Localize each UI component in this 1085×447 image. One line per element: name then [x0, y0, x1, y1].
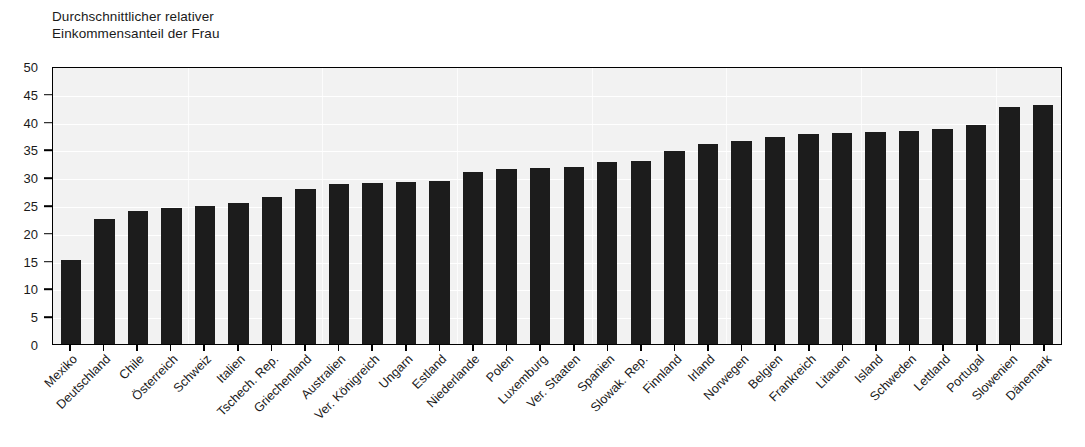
x-tick-mark: [1010, 345, 1012, 351]
x-tick-slot: [389, 345, 423, 352]
bar: [832, 133, 852, 344]
x-tick-mark: [439, 345, 441, 351]
x-label-slot: Österreich: [154, 352, 188, 447]
bar-slot: [959, 68, 993, 344]
bar: [463, 172, 483, 344]
bar: [228, 203, 248, 344]
x-tick-mark: [640, 345, 642, 351]
bar: [966, 125, 986, 344]
x-tick-mark: [506, 345, 508, 351]
x-label-slot: Ver. Königreich: [355, 352, 389, 447]
chart-title-line-2: Einkommensanteil der Frau: [52, 25, 220, 42]
x-label-slot: Lettland: [926, 352, 960, 447]
x-tick-mark: [304, 345, 306, 351]
y-tick-label: 15: [24, 254, 38, 269]
x-tick-slot: [322, 345, 356, 352]
bar-slot: [456, 68, 490, 344]
bar-slot: [389, 68, 423, 344]
bar: [932, 129, 952, 344]
y-tick-label: 50: [24, 60, 38, 75]
x-tick-mark: [405, 345, 407, 351]
x-tick-mark: [271, 345, 273, 351]
x-tick-mark: [909, 345, 911, 351]
x-tick-mark: [69, 345, 71, 351]
bar: [597, 162, 617, 344]
bar: [765, 137, 785, 344]
chart-title: Durchschnittlicher relativer Einkommensa…: [52, 8, 220, 42]
x-label-slot: Finnland: [658, 352, 692, 447]
bar-slot: [1026, 68, 1060, 344]
x-tick-mark: [539, 345, 541, 351]
x-tick-mark: [103, 345, 105, 351]
x-label-slot: Schweiz: [187, 352, 221, 447]
bar-slot: [222, 68, 256, 344]
x-tick-mark: [976, 345, 978, 351]
bar: [195, 206, 215, 344]
x-tick-slot: [691, 345, 725, 352]
y-tick-label: 0: [31, 338, 38, 353]
y-tick-label: 10: [24, 282, 38, 297]
y-tick-mark: [44, 316, 52, 318]
bar: [530, 168, 550, 344]
x-tick-mark: [808, 345, 810, 351]
bar-slot: [423, 68, 457, 344]
y-tick-label: 35: [24, 143, 38, 158]
x-tick-mark: [607, 345, 609, 351]
x-tick-mark: [842, 345, 844, 351]
x-tick-slot: [490, 345, 524, 352]
bar: [128, 211, 148, 344]
bar: [631, 161, 651, 344]
y-tick-label: 5: [31, 310, 38, 325]
x-label-slot: Norwegen: [725, 352, 759, 447]
bar: [1033, 105, 1053, 344]
bar: [698, 144, 718, 344]
y-tick-mark: [44, 205, 52, 207]
bar-slot: [792, 68, 826, 344]
bar-slot: [926, 68, 960, 344]
bar: [295, 189, 315, 344]
x-tick-slot: [893, 345, 927, 352]
x-label-slot: Schweden: [893, 352, 927, 447]
x-tick-mark: [875, 345, 877, 351]
bar-slot: [322, 68, 356, 344]
bar-slot: [624, 68, 658, 344]
bar: [429, 181, 449, 344]
bar: [664, 151, 684, 344]
y-tick-label: 30: [24, 171, 38, 186]
bar: [999, 107, 1019, 344]
bar: [899, 131, 919, 345]
bar-slot: [188, 68, 222, 344]
x-tick-mark: [942, 345, 944, 351]
y-tick-mark: [44, 261, 52, 263]
bar-slot: [758, 68, 792, 344]
x-tick-mark: [203, 345, 205, 351]
x-tick-mark: [573, 345, 575, 351]
x-tick-slot: [154, 345, 188, 352]
y-tick-mark: [44, 289, 52, 291]
x-tick-mark: [1043, 345, 1045, 351]
y-tick-mark: [44, 177, 52, 179]
x-label-slot: Frankreich: [792, 352, 826, 447]
x-label-slot: Ungarn: [389, 352, 423, 447]
x-label-slot: Griechenland: [288, 352, 322, 447]
x-tick-slot: [557, 345, 591, 352]
y-tick-mark: [44, 233, 52, 235]
bar-slot: [591, 68, 625, 344]
bar-slot: [825, 68, 859, 344]
x-label-slot: Niederlande: [456, 352, 490, 447]
y-tick-label: 25: [24, 199, 38, 214]
x-tick-mark: [136, 345, 138, 351]
x-tick-slot: [624, 345, 658, 352]
bar: [61, 260, 81, 344]
chart-figure: Durchschnittlicher relativer Einkommensa…: [0, 0, 1085, 447]
bar: [731, 141, 751, 344]
bar-slot: [691, 68, 725, 344]
x-tick-slot: [456, 345, 490, 352]
chart-title-line-1: Durchschnittlicher relativer: [52, 8, 220, 25]
bar-slot: [255, 68, 289, 344]
x-label-slot: Litauen: [826, 352, 860, 447]
x-tick-mark: [237, 345, 239, 351]
x-tick-slot: [423, 345, 457, 352]
x-tick-label: Chile: [117, 352, 147, 382]
bar-slot: [155, 68, 189, 344]
